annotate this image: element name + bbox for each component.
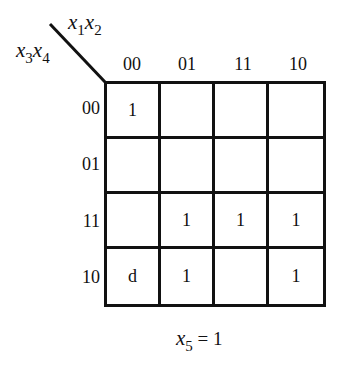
cell-r1-c1 xyxy=(161,139,215,194)
row-variables-label: x3x4 xyxy=(16,38,50,63)
karnaugh-map-grid: 1 1 1 1 d 1 1 xyxy=(104,81,326,307)
cell-r2-c1: 1 xyxy=(161,194,215,249)
cell-r2-c3: 1 xyxy=(269,194,323,249)
row-var-2-sub: 4 xyxy=(42,50,50,66)
row-var-1: x xyxy=(16,38,25,62)
col-var-1-sub: 1 xyxy=(77,22,85,38)
col-var-2: x xyxy=(85,10,94,34)
row-label-00: 00 xyxy=(68,98,100,119)
col-var-2-sub: 2 xyxy=(94,22,102,38)
caption-variable: x xyxy=(176,326,185,350)
cell-r0-c3 xyxy=(269,84,323,139)
row-label-01: 01 xyxy=(68,154,100,175)
col-var-1: x xyxy=(68,10,77,34)
row-var-2: x xyxy=(33,38,42,62)
cell-r0-c2 xyxy=(215,84,269,139)
caption-value: = 1 xyxy=(193,328,223,349)
cell-r1-c0 xyxy=(107,139,161,194)
column-label-11: 11 xyxy=(215,54,271,75)
row-var-1-sub: 3 xyxy=(25,50,33,66)
map-caption: x5 = 1 xyxy=(176,326,223,351)
cell-r0-c0: 1 xyxy=(107,84,161,139)
row-label-10: 10 xyxy=(68,267,100,288)
cell-r3-c3: 1 xyxy=(269,249,323,304)
cell-r1-c2 xyxy=(215,139,269,194)
cell-r0-c1 xyxy=(161,84,215,139)
cell-r3-c0: d xyxy=(107,249,161,304)
cell-r1-c3 xyxy=(269,139,323,194)
column-variables-label: x1x2 xyxy=(68,10,102,35)
cell-r3-c1: 1 xyxy=(161,249,215,304)
cell-r2-c2: 1 xyxy=(215,194,269,249)
cell-r2-c0 xyxy=(107,194,161,249)
row-label-11: 11 xyxy=(68,211,100,232)
column-label-00: 00 xyxy=(104,54,160,75)
column-label-01: 01 xyxy=(159,54,215,75)
column-label-10: 10 xyxy=(270,54,326,75)
caption-variable-sub: 5 xyxy=(185,338,193,354)
cell-r3-c2 xyxy=(215,249,269,304)
